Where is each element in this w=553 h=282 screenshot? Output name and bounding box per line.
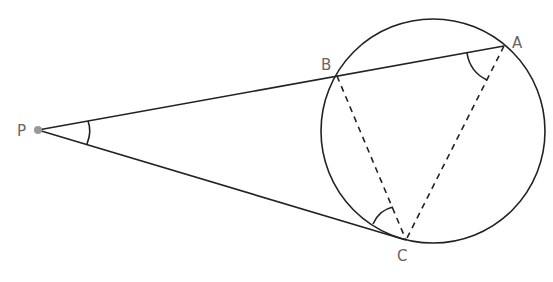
diagram-canvas: P B A C <box>0 0 553 282</box>
label-C: C <box>397 247 407 265</box>
label-P: P <box>17 122 26 140</box>
label-B: B <box>321 56 331 74</box>
secant-line-PA <box>38 46 504 130</box>
angle-C-arc <box>373 207 393 224</box>
circle <box>321 19 545 243</box>
angle-P-arc <box>87 121 90 144</box>
label-A: A <box>512 34 523 52</box>
angle-A-arc <box>467 53 487 80</box>
tangent-line-PC <box>38 130 406 240</box>
geometry-figure: P B A C <box>0 0 553 282</box>
chord-AC-dashed <box>406 46 504 240</box>
point-P-dot <box>34 126 42 134</box>
chord-BC-dashed <box>337 76 406 240</box>
